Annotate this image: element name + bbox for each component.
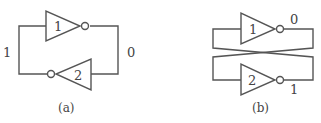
output-2-value: 1 [290, 82, 298, 97]
right-wire [90, 26, 118, 74]
right-node-value: 0 [127, 45, 135, 60]
caption-b: (b) [252, 101, 269, 115]
inverter-2-bubble [48, 71, 55, 78]
inverter-1-triangle [46, 11, 80, 41]
diagram-a: 1 2 1 0 (a) [3, 11, 135, 115]
inverter-1-bubble [277, 26, 284, 33]
inverter-2-label: 2 [74, 68, 82, 83]
inverter-1-label: 1 [54, 19, 62, 34]
output-1-value: 0 [290, 12, 298, 27]
inverter-loop-figure: 1 2 1 0 (a) 1 2 0 1 (b) [0, 0, 321, 123]
caption-a: (a) [58, 101, 75, 115]
left-node-value: 1 [3, 45, 11, 60]
inverter-2-bubble [277, 77, 284, 84]
inverter-2-triangle [241, 64, 275, 95]
loop-wire-1 [213, 29, 313, 80]
inverter-2-label: 2 [248, 73, 256, 88]
inverter-1-bubble [82, 23, 89, 30]
inverter-1-label: 1 [249, 22, 257, 37]
loop-wire-2 [213, 29, 313, 80]
inverter-1-triangle [241, 13, 275, 44]
left-wire [19, 26, 47, 74]
diagram-b: 1 2 0 1 (b) [213, 12, 313, 115]
